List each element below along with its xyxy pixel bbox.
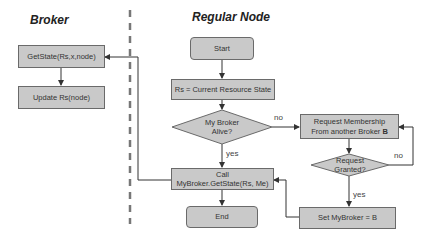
update-rs-box: Update Rs(node) bbox=[18, 86, 105, 109]
request-membership-box: Request Membership From another Broker B bbox=[300, 114, 399, 139]
edge-label-no: no bbox=[274, 113, 283, 122]
resource-state-box: Rs = Current Resource State bbox=[171, 79, 275, 100]
call-getstate-box: Call MyBroker.GetState(Rs, Me) bbox=[171, 168, 274, 190]
edge-label-no: no bbox=[394, 151, 403, 160]
broker-alive-label: My Broker Alive? bbox=[190, 116, 254, 138]
edge-label-yes: yes bbox=[226, 149, 238, 158]
set-mybroker-box: Set MyBroker = B bbox=[299, 207, 396, 229]
end-node: End bbox=[186, 206, 258, 228]
regular-node-lane-title: Regular Node bbox=[192, 10, 270, 24]
request-granted-label: Request Granted? bbox=[322, 155, 378, 175]
edge-label-yes: yes bbox=[353, 190, 365, 199]
start-node: Start bbox=[190, 37, 254, 60]
getstate-box: GetState(Rs,x,node) bbox=[18, 45, 105, 68]
broker-lane-title: Broker bbox=[30, 13, 69, 27]
